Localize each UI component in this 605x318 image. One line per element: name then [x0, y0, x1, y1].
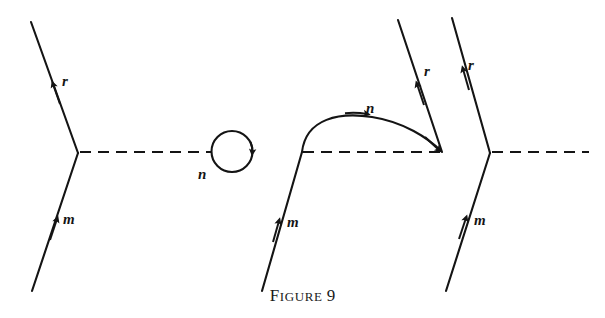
- diagram-3-m-label: m: [474, 212, 486, 228]
- diagram-3-r-label: r: [468, 57, 474, 73]
- figure-caption-prefix-first: F: [270, 286, 280, 305]
- figure-container: r m n m n: [0, 0, 605, 318]
- figure-caption: FIGURE 9: [0, 286, 605, 306]
- diagram-2-group: m n r: [262, 20, 442, 291]
- diagram-2-n-arc: [302, 115, 441, 152]
- diagram-2-r-label: r: [424, 63, 430, 79]
- figure-caption-number: 9: [327, 286, 336, 305]
- diagram-2-n-label: n: [366, 100, 374, 116]
- diagram-1-loop-circle: [212, 131, 253, 172]
- feynman-diagram-canvas: r m n m n: [0, 0, 605, 318]
- diagram-1-loop-arrowhead: [251, 142, 253, 153]
- diagram-1-r-label: r: [62, 73, 68, 89]
- diagram-1-r-arrowhead: [53, 84, 60, 104]
- diagram-2-m-label: m: [287, 214, 299, 230]
- diagram-2-outgoing-r-line: [398, 20, 442, 152]
- diagram-1-group: r m n: [31, 22, 253, 291]
- diagram-1-m-label: m: [63, 211, 75, 227]
- diagram-3-outgoing-r-line: [452, 18, 490, 153]
- diagram-3-group: r m: [446, 18, 589, 291]
- figure-caption-prefix-rest: IGURE: [280, 289, 323, 304]
- diagram-2-n-arc-arrowhead: [345, 113, 367, 114]
- diagram-1-m-arrowhead: [50, 219, 57, 240]
- diagram-1-n-label: n: [198, 166, 206, 182]
